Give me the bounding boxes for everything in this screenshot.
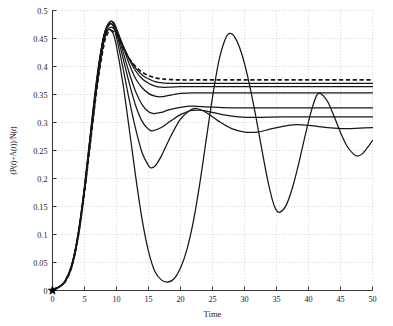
x-tick-label: 15	[144, 295, 152, 304]
y-tick-label: 0.1	[37, 231, 47, 240]
x-tick-label: 25	[208, 295, 216, 304]
x-tick-label: 10	[112, 295, 120, 304]
x-tick-labels: 05101520253035404550	[50, 295, 376, 304]
x-axis-title-text: Time	[204, 309, 222, 319]
x-tick-label: 5	[82, 295, 86, 304]
y-tick-label: 0.4	[37, 63, 47, 72]
y-tick-label: 0.3	[37, 119, 47, 128]
y-axis-title-text: (P(t)+A(t))/N(t)	[9, 126, 18, 175]
y-tick-label: 0	[43, 287, 47, 296]
origin-star-icon	[48, 286, 57, 294]
x-tick-label: 40	[304, 295, 312, 304]
y-tick-label: 0.25	[33, 147, 47, 156]
x-tick-label: 35	[272, 295, 280, 304]
x-axis-title: Time	[204, 309, 222, 319]
y-tick-label: 0.5	[37, 7, 47, 16]
y-tick-labels: 00.050.10.150.20.250.30.350.40.450.5	[33, 7, 47, 296]
data-markers	[48, 286, 57, 294]
x-tick-label: 50	[368, 295, 376, 304]
chart-canvas: 05101520253035404550 00.050.10.150.20.25…	[0, 0, 393, 326]
x-tick-label: 30	[240, 295, 248, 304]
y-tick-label: 0.2	[37, 175, 47, 184]
y-axis-title: (P(t)+A(t))/N(t)	[9, 126, 18, 175]
y-tick-label: 0.45	[33, 35, 47, 44]
x-tick-label: 20	[176, 295, 184, 304]
x-tick-label: 45	[336, 295, 344, 304]
x-tick-label: 0	[50, 295, 54, 304]
y-tick-label: 0.05	[33, 259, 47, 268]
y-tick-label: 0.35	[33, 91, 47, 100]
data-curves	[53, 21, 373, 289]
figure-container: 05101520253035404550 00.050.10.150.20.25…	[0, 0, 393, 326]
y-tick-label: 0.15	[33, 203, 47, 212]
